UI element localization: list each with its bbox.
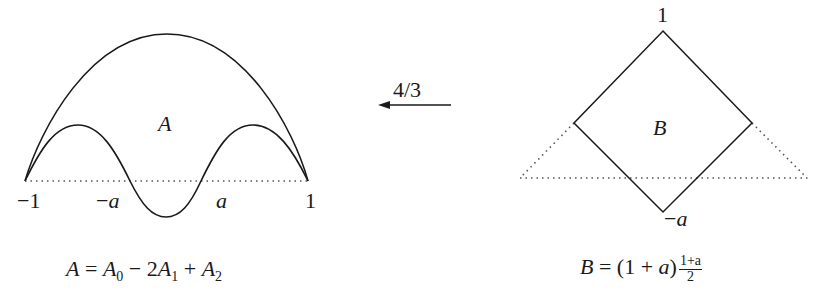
region-label-b: B: [653, 117, 666, 139]
eq-b-var: a: [659, 254, 670, 279]
eq-a-op1: − 2: [123, 256, 157, 281]
neg-a-var: a: [108, 188, 119, 213]
eq-b-fraction: 1+a2: [679, 254, 702, 284]
equation-b: B = (1 + a)1+a2: [580, 254, 702, 284]
outer-arch-curve: [25, 34, 308, 181]
inner-wave-curve: [25, 125, 308, 217]
arrow-head-icon: [378, 101, 390, 109]
vertex-label-top: 1: [657, 4, 668, 26]
neg-a-sign: −: [96, 188, 108, 213]
axis-label-a: a: [216, 190, 227, 212]
vertex-label-bottom: −a: [664, 208, 687, 230]
frac-denominator: 2: [679, 270, 702, 285]
eq-a-lhs: A: [66, 256, 79, 281]
equation-a: A = A0 − 2A1 + A2: [66, 258, 222, 284]
frac-numerator: 1+a: [679, 254, 702, 270]
eq-a-equals: =: [79, 256, 102, 281]
axis-label-neg-a: −a: [96, 190, 119, 212]
arrow-label: 4/3: [393, 79, 421, 101]
eq-b-open: = (1 +: [593, 254, 658, 279]
bottom-label-var: a: [676, 206, 687, 231]
eq-b-close: ): [670, 254, 677, 279]
right-triangle-side-dotted: [752, 123, 805, 176]
eq-a-op2: +: [178, 256, 201, 281]
left-triangle-side-dotted: [522, 123, 574, 176]
axis-label-neg-one: −1: [17, 190, 40, 212]
eq-a-term2: A: [202, 256, 215, 281]
axis-label-one: 1: [305, 190, 316, 212]
eq-a-term1: A: [158, 256, 171, 281]
eq-a-term0: A: [103, 256, 116, 281]
region-label-a: A: [158, 113, 171, 135]
eq-b-lhs: B: [580, 254, 593, 279]
eq-a-sub2: 2: [215, 269, 222, 284]
bottom-label-sign: −: [664, 206, 676, 231]
